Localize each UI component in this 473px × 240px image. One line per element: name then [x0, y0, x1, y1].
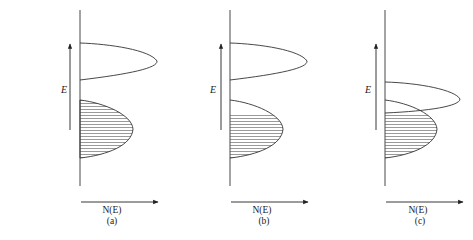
lower-band-hatch — [385, 100, 437, 158]
upper-band-curve — [80, 43, 157, 80]
upper-band-curve — [385, 82, 460, 113]
panel-b: E N(E) (b) — [209, 10, 308, 227]
panel-a: E N(E) (a) — [60, 10, 158, 227]
panel-caption: (b) — [258, 216, 269, 227]
panel-c: E N(E) (c) — [364, 10, 463, 227]
panel-caption: (a) — [107, 216, 118, 227]
lower-band-hatch — [230, 100, 283, 158]
energy-label: E — [364, 84, 371, 95]
dos-label: N(E) — [409, 205, 428, 216]
upper-band-curve — [230, 43, 307, 80]
dos-label: N(E) — [253, 205, 272, 216]
panel-caption: (c) — [415, 216, 426, 227]
dos-figure: E N(E) (a) E N(E) (b) E N(E) (c) — [0, 0, 473, 240]
energy-label: E — [209, 84, 216, 95]
dos-label: N(E) — [103, 205, 122, 216]
energy-label: E — [60, 84, 67, 95]
lower-band-filled — [80, 100, 133, 158]
